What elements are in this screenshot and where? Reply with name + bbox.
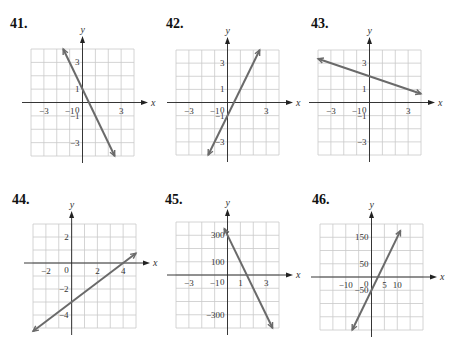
x-axis-arrow-icon (430, 275, 437, 280)
x-tick-label: 5 (382, 280, 387, 290)
x-tick-label: 10 (393, 280, 403, 290)
y-axis-arrow-icon (369, 211, 374, 218)
x-axis-label: x (439, 271, 445, 282)
y-axis-label: y (369, 199, 375, 210)
graph-46-plot: xy−1051015050−500 (0, 0, 455, 343)
origin-label: 0 (364, 279, 369, 289)
y-tick-label: 50 (360, 259, 370, 269)
y-tick-label: 150 (355, 232, 369, 242)
x-tick-label: −10 (339, 280, 354, 290)
